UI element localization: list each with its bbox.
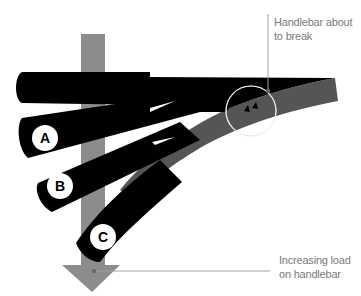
svg-text:A: A xyxy=(40,130,50,146)
svg-text:B: B xyxy=(55,178,65,194)
break-leader-dot xyxy=(266,89,270,93)
load-annotation: Increasing load on handlebar xyxy=(279,253,351,281)
load-annotation-line2: on handlebar xyxy=(279,267,351,281)
load-leader-dot xyxy=(92,269,96,273)
svg-text:C: C xyxy=(98,229,108,245)
break-annotation-line1: Handlebar about xyxy=(274,15,352,29)
badge-a: A xyxy=(32,125,58,151)
badge-c: C xyxy=(90,224,116,250)
break-annotation-line2: to break xyxy=(274,29,352,43)
load-arrow-head xyxy=(62,265,120,292)
diagram-canvas: A B C xyxy=(0,0,361,296)
break-annotation: Handlebar about to break xyxy=(274,15,352,43)
badge-b: B xyxy=(47,173,73,199)
load-annotation-line1: Increasing load xyxy=(279,253,351,267)
handlebar-diagram: A B C Handlebar about to break Increasin… xyxy=(0,0,361,296)
